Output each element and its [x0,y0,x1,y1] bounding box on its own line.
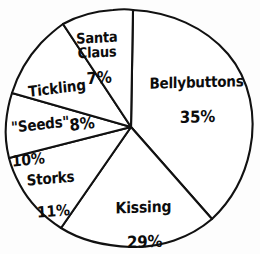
slice-label-bellybuttons-name: Bellybuttons [140,74,254,92]
pie-chart: Bellybuttons 35% Kissing 29% Storks 11% … [0,0,260,254]
slice-label-bellybuttons: Bellybuttons 35% [139,59,255,144]
slice-label-storks-value: 11% [15,200,92,222]
slice-label-tickling-value-group: 8% [57,98,107,152]
slice-label-kissing: Kissing 29% [91,182,198,254]
slice-label-kissing-value: 29% [93,232,197,252]
slice-label-santa-claus-value: 7% [76,69,123,89]
slice-label-bellybuttons-value: 35% [140,108,254,128]
slice-label-kissing-name: Kissing [91,198,195,218]
slice-label-tickling-value: 8% [59,114,104,136]
slice-label-santa-claus-value-group: 7% [74,52,123,104]
